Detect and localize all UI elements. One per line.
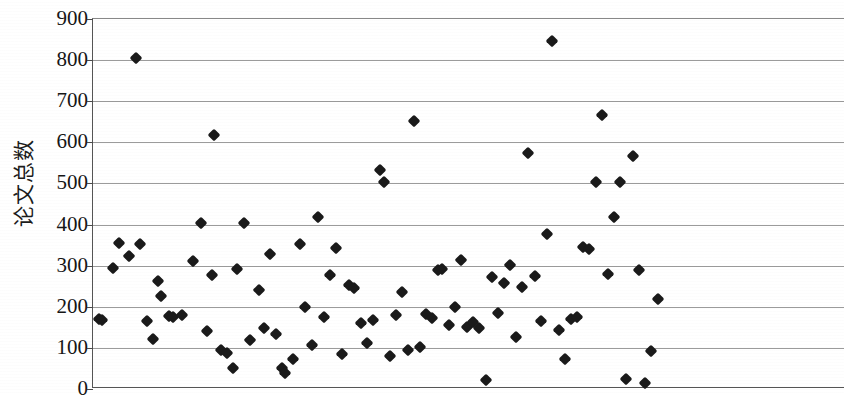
data-point	[264, 248, 277, 261]
data-point	[253, 284, 266, 297]
y-axis-tick	[87, 266, 93, 267]
data-point	[258, 322, 271, 335]
data-point	[602, 268, 615, 281]
data-point	[152, 275, 165, 288]
data-point	[541, 228, 554, 241]
y-axis-tick-labels: 9008007006005004003002001000	[40, 0, 88, 393]
y-axis-tick-label: 200	[40, 293, 88, 318]
y-axis-tick-label: 800	[40, 47, 88, 72]
data-point	[294, 238, 307, 251]
y-axis-tick	[87, 19, 93, 20]
data-point	[206, 268, 219, 281]
data-point	[516, 281, 529, 294]
plot-area	[92, 18, 844, 388]
data-point	[330, 242, 343, 255]
data-point	[504, 259, 517, 272]
data-point	[208, 128, 221, 141]
data-point	[522, 147, 535, 160]
data-point	[498, 277, 511, 290]
y-axis-tick	[87, 60, 93, 61]
data-point	[107, 262, 120, 275]
data-point	[141, 315, 154, 328]
y-axis-tick-label: 600	[40, 129, 88, 154]
data-point	[270, 327, 283, 340]
data-point	[227, 362, 240, 375]
y-axis-tick-label: 300	[40, 252, 88, 277]
data-point	[480, 373, 493, 386]
data-point	[378, 176, 391, 189]
gridline	[93, 60, 844, 61]
data-point	[367, 313, 380, 326]
data-point	[231, 262, 244, 275]
data-point	[449, 301, 462, 314]
data-point	[384, 349, 397, 362]
data-point	[238, 217, 251, 230]
data-point	[596, 109, 609, 122]
data-point	[374, 164, 387, 177]
data-point	[546, 34, 559, 47]
data-point	[627, 150, 640, 163]
data-point	[408, 115, 421, 128]
data-point	[130, 52, 143, 65]
y-axis-tick-label: 700	[40, 88, 88, 113]
gridline	[93, 101, 844, 102]
data-point	[201, 325, 214, 338]
data-point	[299, 300, 312, 313]
data-point	[134, 238, 147, 251]
gridline	[93, 266, 844, 267]
data-point	[195, 217, 208, 230]
gridline	[93, 348, 844, 349]
data-point	[147, 333, 160, 346]
y-axis-tick	[87, 183, 93, 184]
y-axis-tick-label: 900	[40, 6, 88, 31]
data-point	[324, 268, 337, 281]
data-point	[396, 285, 409, 298]
y-axis-tick	[87, 101, 93, 102]
data-point	[287, 353, 300, 366]
data-point	[306, 339, 319, 352]
gridline	[93, 142, 844, 143]
y-axis-tick	[87, 389, 93, 390]
data-point	[486, 271, 499, 284]
data-point	[414, 341, 427, 354]
data-point	[113, 236, 126, 249]
data-point	[590, 175, 603, 188]
data-point	[652, 293, 665, 306]
data-point	[492, 306, 505, 319]
y-axis-tick	[87, 348, 93, 349]
data-point	[614, 175, 627, 188]
y-axis-tick	[87, 142, 93, 143]
data-point	[155, 289, 168, 302]
data-point	[355, 317, 368, 330]
data-point	[123, 249, 136, 262]
y-axis-tick	[87, 225, 93, 226]
data-point	[620, 373, 633, 386]
data-point	[455, 253, 468, 266]
y-axis-tick-label: 0	[40, 376, 88, 399]
data-point	[244, 333, 257, 346]
data-point	[402, 343, 415, 356]
y-axis-tick-label: 400	[40, 211, 88, 236]
data-point	[535, 315, 548, 328]
y-axis-tick-label: 500	[40, 170, 88, 195]
data-point	[529, 269, 542, 282]
data-point	[510, 330, 523, 343]
data-point	[639, 377, 652, 390]
data-point	[443, 319, 456, 332]
data-point	[312, 211, 325, 224]
data-point	[553, 324, 566, 337]
gridline	[93, 307, 844, 308]
data-point	[318, 310, 331, 323]
data-point	[390, 309, 403, 322]
y-axis-label: 论文总数	[7, 83, 37, 283]
data-point	[645, 344, 658, 357]
data-point	[559, 353, 572, 366]
data-point	[336, 347, 349, 360]
data-point	[608, 211, 621, 224]
data-point	[176, 309, 189, 322]
y-axis-tick-label: 100	[40, 334, 88, 359]
gridline	[93, 183, 844, 184]
y-axis-tick	[87, 307, 93, 308]
